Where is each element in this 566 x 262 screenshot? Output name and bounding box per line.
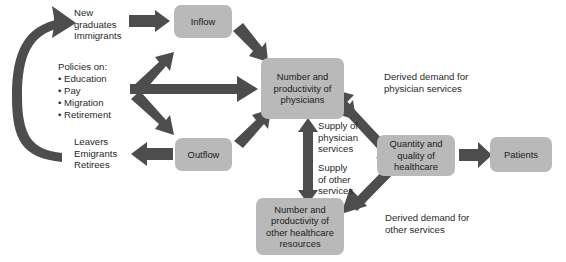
node-patients-label: Patients (504, 149, 538, 160)
feedback-loop-arrowhead (52, 6, 76, 38)
node-quality[interactable]: Quantity and quality of healthcare (377, 135, 455, 176)
node-outflow-label: Outflow (188, 149, 220, 160)
node-other-resources[interactable]: Number and productivity of other healthc… (256, 198, 344, 255)
label-supply-other: Supply of other services (318, 162, 353, 197)
label-policies-list: • Education • Pay • Migration • Retireme… (58, 73, 111, 121)
quality-to-patients-arrow (459, 142, 492, 168)
graduates-to-inflow-arrow (129, 10, 170, 32)
node-physicians[interactable]: Number and productivity of physicians (261, 58, 344, 119)
label-supply-physician: Supply of physician services (318, 120, 358, 155)
label-leavers: Leavers Emigrants Retirees (74, 136, 117, 171)
label-new-graduates: New graduates Immigrants (74, 7, 121, 42)
physicians-other-head-up (298, 118, 318, 132)
node-patients[interactable]: Patients (490, 137, 552, 172)
policies-to-outflow-arrow (131, 91, 174, 135)
label-derived-demand-physician: Derived demand for physician services (384, 71, 468, 94)
node-outflow[interactable]: Outflow (175, 138, 232, 171)
diagram-canvas: Inflow Outflow Number and productivity o… (0, 0, 566, 262)
inflow-to-physicians-arrow (233, 23, 268, 62)
label-derived-demand-other: Derived demand for other services (385, 212, 469, 235)
node-inflow-label: Inflow (191, 16, 216, 27)
label-policies-title: Policies on: (58, 61, 107, 73)
node-physicians-label: Number and productivity of physicians (274, 71, 332, 105)
node-inflow[interactable]: Inflow (174, 5, 232, 38)
outflow-to-leavers-arrow (131, 142, 173, 166)
feedback-loop-arrow (12, 19, 62, 162)
physicians-other-shaft (303, 126, 313, 196)
node-quality-label: Quantity and quality of healthcare (377, 138, 455, 172)
node-other-resources-label: Number and productivity of other healthc… (266, 204, 334, 250)
